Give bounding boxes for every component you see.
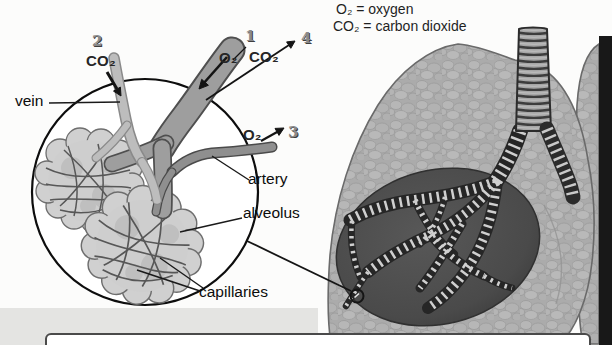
o2-artery-label: O₂: [243, 127, 262, 142]
lung-gas-exchange-diagram: O₂ = oxygen CO₂ = carbon dioxide vein ar…: [0, 0, 612, 345]
o2-artery-arrowhead: [275, 128, 284, 135]
step-number-2: 2: [92, 34, 102, 49]
o2-artery-arrow-line: [261, 132, 278, 142]
black-edge-band: [599, 36, 612, 345]
trachea: [516, 28, 551, 132]
co2-out-arrowhead: [287, 41, 295, 48]
capillaries-label: capillaries: [199, 284, 268, 300]
o2-in-label: O₂: [219, 50, 238, 65]
artery-label: artery: [248, 171, 288, 187]
bottom-answer-box: [45, 333, 591, 345]
step-number-4: 4: [301, 31, 311, 46]
step-number-3: 3: [288, 125, 298, 140]
vein-pointer-line: [49, 102, 120, 103]
co2-out-label: CO₂: [249, 49, 279, 64]
legend-oxygen-definition: O₂ = oxygen: [336, 2, 413, 16]
legend-co2-definition: CO₂ = carbon dioxide: [333, 19, 466, 33]
step-number-1: 1: [245, 29, 255, 44]
vein-label: vein: [15, 93, 43, 109]
co2-vein-label: CO₂: [86, 53, 116, 68]
alveolus-label: alveolus: [243, 205, 300, 221]
